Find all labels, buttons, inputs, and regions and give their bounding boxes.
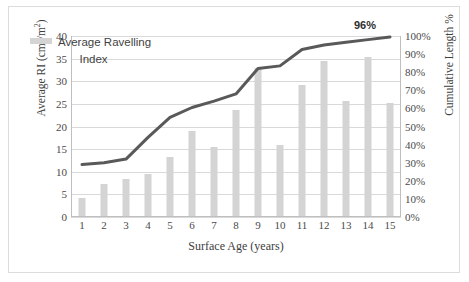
x-axis-tick-label: 14 xyxy=(363,220,374,231)
y-axis-right-tick-label: 50% xyxy=(405,121,441,132)
y-axis-right-tick-label: 40% xyxy=(405,139,441,150)
x-axis-tick-label: 13 xyxy=(341,220,352,231)
end-value-label: 96% xyxy=(354,19,376,31)
y-axis-left-tick-label: 0 xyxy=(21,212,67,223)
y-axis-right-tick-label: 0% xyxy=(405,212,441,223)
x-axis-tick-label: 6 xyxy=(189,220,195,231)
x-axis-tick-label: 15 xyxy=(385,220,396,231)
y-axis-right-tick-label: 70% xyxy=(405,85,441,96)
chart-container: 4035302520151050 100%90%80%70%60%50%40%3… xyxy=(8,6,460,273)
legend-label-line1: Average Ravelling xyxy=(58,36,151,48)
x-axis-tick-label: 12 xyxy=(319,220,330,231)
y-axis-right-tick-label: 60% xyxy=(405,103,441,114)
x-axis-tick-label: 11 xyxy=(297,220,308,231)
y-axis-right-ticks: 100%90%80%70%60%50%40%30%20%10%0% xyxy=(405,36,445,217)
y-axis-right-tick-label: 10% xyxy=(405,193,441,204)
x-axis-title: Surface Age (years) xyxy=(71,239,401,254)
x-axis-tick-label: 7 xyxy=(211,220,217,231)
chart-legend: Average Ravelling Index xyxy=(30,34,151,67)
y-axis-right-tick-label: 30% xyxy=(405,157,441,168)
y-axis-right-tick-label: 100% xyxy=(405,31,441,42)
x-axis-tick-label: 3 xyxy=(123,220,129,231)
x-axis-tick-label: 1 xyxy=(79,220,85,231)
y-axis-right-tick-label: 80% xyxy=(405,67,441,78)
y-axis-right-title: Cumulative Length % xyxy=(443,0,455,140)
legend-label-line2: Index xyxy=(58,51,151,68)
legend-label: Average Ravelling Index xyxy=(58,34,151,67)
y-axis-right-tick-label: 20% xyxy=(405,175,441,186)
y-axis-left-title: Average RI (cm3/m2) xyxy=(33,0,47,143)
average-ravelling-index-swatch xyxy=(30,38,52,44)
y-axis-left-tick-label: 5 xyxy=(21,189,67,200)
x-axis-tick-label: 4 xyxy=(145,220,151,231)
y-axis-right-tick-label: 90% xyxy=(405,49,441,60)
gridline xyxy=(71,217,401,218)
x-axis-tick-label: 8 xyxy=(233,220,239,231)
x-axis-tick-label: 9 xyxy=(255,220,261,231)
y-axis-left-tick-label: 10 xyxy=(21,166,67,177)
y-axis-left-tick-label: 15 xyxy=(21,144,67,155)
x-axis-ticks: 123456789101112131415 xyxy=(71,220,401,236)
x-axis-tick-label: 2 xyxy=(101,220,107,231)
x-axis-tick-label: 10 xyxy=(275,220,286,231)
x-axis-tick-label: 5 xyxy=(167,220,173,231)
